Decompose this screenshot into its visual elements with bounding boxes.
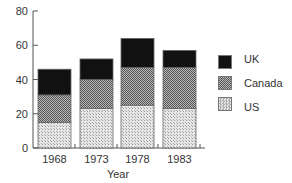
legend-swatch-us <box>218 97 232 111</box>
x-tick-label: 1978 <box>125 153 149 165</box>
y-tick-label: 20 <box>16 108 28 120</box>
bars-group <box>38 38 196 148</box>
legend: UK Canada US <box>218 55 292 118</box>
y-tick-label: 60 <box>16 39 28 51</box>
bar-segment-uk-1983 <box>163 50 196 67</box>
legend-swatch-uk <box>218 55 232 69</box>
x-axis-title: Year <box>107 168 130 180</box>
bar-segment-canada-1983 <box>163 68 196 109</box>
bar-segment-uk-1968 <box>38 69 71 95</box>
x-tick-label: 1973 <box>84 153 108 165</box>
legend-item-canada: Canada <box>218 76 292 97</box>
bar-segment-us-1968 <box>38 122 71 148</box>
bar-segment-canada-1978 <box>121 68 154 106</box>
bar-segment-uk-1973 <box>80 59 113 80</box>
y-tick-label: 0 <box>22 142 28 154</box>
legend-swatch-canada <box>218 76 232 90</box>
x-tick-label: 1968 <box>42 153 66 165</box>
bar-segment-us-1978 <box>121 105 154 148</box>
legend-label-canada: Canada <box>244 77 283 89</box>
bar-segment-us-1983 <box>163 109 196 148</box>
y-tick-label: 40 <box>16 74 28 86</box>
x-tick-label: 1983 <box>167 153 191 165</box>
bar-segment-canada-1968 <box>38 95 71 122</box>
bar-segment-uk-1978 <box>121 38 154 67</box>
y-tick-label: 80 <box>16 5 28 17</box>
bar-segment-us-1973 <box>80 109 113 148</box>
legend-label-uk: UK <box>244 53 259 65</box>
legend-label-us: US <box>244 101 259 113</box>
legend-item-uk: UK <box>218 55 292 76</box>
legend-item-us: US <box>218 97 292 118</box>
bar-segment-canada-1973 <box>80 80 113 109</box>
